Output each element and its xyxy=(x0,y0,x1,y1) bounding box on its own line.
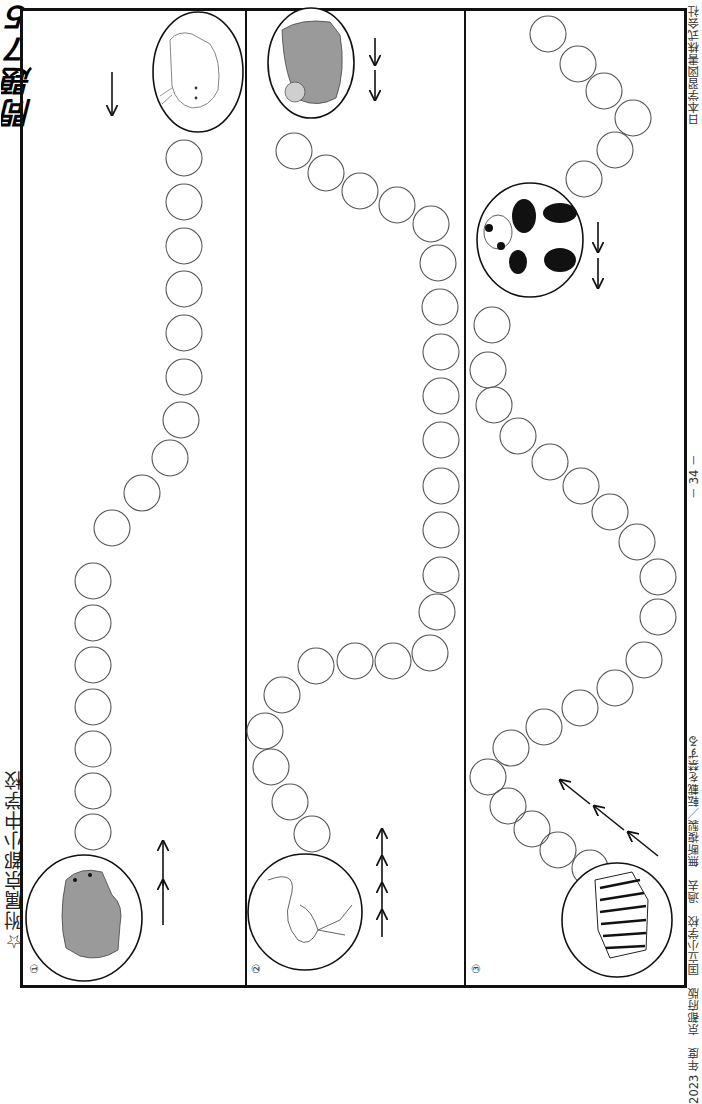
monkey-icon xyxy=(268,8,354,118)
panel-1-number: ① xyxy=(28,964,41,974)
panel-1 xyxy=(75,140,202,850)
panel-2-path-circles xyxy=(247,133,459,852)
panel-2-number: ② xyxy=(250,964,263,974)
panel-1-path-circles xyxy=(75,140,202,850)
footer-copyright: 2023 年度 京都府版 国立小学校 過去 無断複製／転載を禁ずる xyxy=(686,735,702,1104)
panel-3-path-circles xyxy=(470,16,676,886)
cat-icon xyxy=(153,12,243,132)
footer-page-number: － 34 － xyxy=(686,455,702,499)
panda-icon xyxy=(477,183,583,297)
flamingo-icon xyxy=(248,854,362,970)
footer-publisher: 日本学習図書株式会社 xyxy=(686,5,702,125)
panel-3-number: ③ xyxy=(470,964,483,974)
bear-icon xyxy=(26,855,142,981)
zebra-icon xyxy=(562,863,672,977)
